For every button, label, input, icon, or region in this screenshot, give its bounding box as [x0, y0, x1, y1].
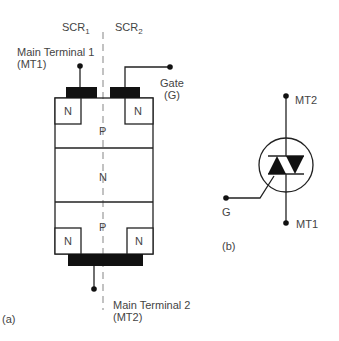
- triac-mt2-label: MT2: [295, 94, 317, 106]
- mt1-electrode: [66, 87, 97, 98]
- mt2-electrode: [68, 254, 143, 266]
- mt2-terminal-dot: [91, 286, 97, 292]
- region-top-n-left: N: [64, 105, 72, 117]
- triac-mt1-dot: [283, 220, 289, 226]
- region-bottom-p: P: [99, 221, 106, 233]
- region-bottom-n-right: N: [135, 235, 143, 247]
- gate-terminal-dot: [167, 64, 173, 70]
- scr2-label: SCR2: [115, 21, 143, 38]
- gate-electrode: [110, 87, 140, 98]
- region-bottom-n-left: N: [64, 235, 72, 247]
- region-top-n-right: N: [134, 105, 142, 117]
- triac-down-triangle-icon: [286, 156, 304, 174]
- gate-label: Gate(G): [160, 77, 184, 101]
- triac-gate-label: G: [222, 206, 231, 218]
- scr1-label: SCR1: [62, 21, 90, 38]
- mt1-label: Main Terminal 1(MT1): [17, 46, 94, 70]
- triac-up-triangle-icon: [268, 156, 286, 174]
- region-top-p: P: [99, 125, 106, 137]
- region-middle-n: N: [99, 171, 107, 183]
- triac-mt2-dot: [283, 93, 289, 99]
- figure-a-caption: (a): [2, 313, 15, 325]
- triac-gate-dot: [223, 195, 229, 201]
- triac-gate-lead: [226, 176, 274, 198]
- figure-b-caption: (b): [222, 240, 235, 252]
- triac-mt1-label: MT1: [296, 218, 318, 230]
- mt2-label: Main Terminal 2(MT2): [113, 299, 190, 323]
